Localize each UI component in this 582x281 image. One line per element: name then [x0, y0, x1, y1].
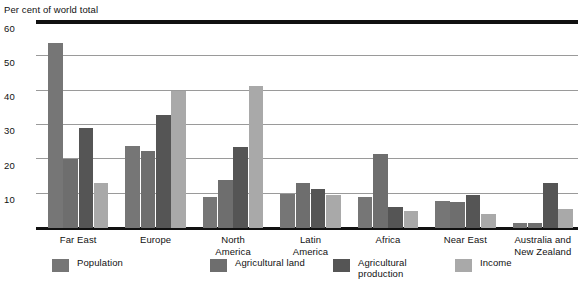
bar	[450, 202, 465, 228]
y-tick-50: 50	[4, 57, 15, 68]
bar	[280, 194, 295, 228]
y-tick-30: 30	[4, 125, 15, 136]
bar	[513, 223, 528, 228]
bar-group	[280, 22, 340, 228]
bar	[125, 146, 140, 228]
plot-area	[36, 22, 578, 228]
bar	[249, 86, 264, 228]
bar	[435, 201, 450, 228]
legend-label: Population	[77, 258, 123, 269]
category-label: Australia and New Zealand	[483, 234, 582, 257]
bar-group	[435, 22, 495, 228]
legend-item[interactable]: Income	[455, 258, 512, 272]
bar	[358, 197, 373, 228]
bar	[326, 195, 341, 228]
bar	[63, 159, 78, 228]
bar	[528, 223, 543, 228]
bar	[218, 180, 233, 228]
y-tick-40: 40	[4, 91, 15, 102]
bar	[171, 91, 186, 228]
legend-item[interactable]: Agricultural land	[210, 258, 305, 272]
legend-item[interactable]: Population	[52, 258, 123, 272]
y-tick-20: 20	[4, 160, 15, 171]
bar-group	[125, 22, 185, 228]
y-tick-10: 10	[4, 194, 15, 205]
chart-axis-title: Per cent of world total	[4, 4, 98, 15]
bar-group	[203, 22, 263, 228]
legend-swatch-icon	[455, 259, 472, 272]
legend-label: Agricultural land	[235, 258, 305, 269]
legend-swatch-icon	[52, 259, 69, 272]
bar	[141, 151, 156, 228]
y-tick-60: 60	[4, 23, 15, 34]
legend-label: Income	[480, 258, 512, 269]
bar-chart: Per cent of world total 60 50 40 30 20 1…	[0, 0, 582, 281]
bar	[373, 154, 388, 228]
bar-group	[513, 22, 573, 228]
bar	[404, 211, 419, 228]
bar-group	[358, 22, 418, 228]
bar	[388, 207, 403, 228]
legend-label: Agricultural production	[358, 258, 407, 279]
legend-swatch-icon	[210, 259, 227, 272]
bar	[79, 128, 94, 228]
bar	[94, 183, 109, 228]
bar	[203, 197, 218, 228]
bar	[156, 115, 171, 228]
bar	[543, 183, 558, 228]
legend-swatch-icon	[333, 259, 350, 272]
legend-item[interactable]: Agricultural production	[333, 258, 407, 279]
bar-group	[48, 22, 108, 228]
bar	[311, 189, 326, 228]
bar	[558, 209, 573, 228]
bar	[466, 195, 481, 228]
bar	[296, 183, 311, 228]
bar	[481, 214, 496, 228]
bar	[48, 43, 63, 228]
chart-legend: PopulationAgricultural landAgricultural …	[0, 258, 582, 281]
bar	[233, 147, 248, 228]
